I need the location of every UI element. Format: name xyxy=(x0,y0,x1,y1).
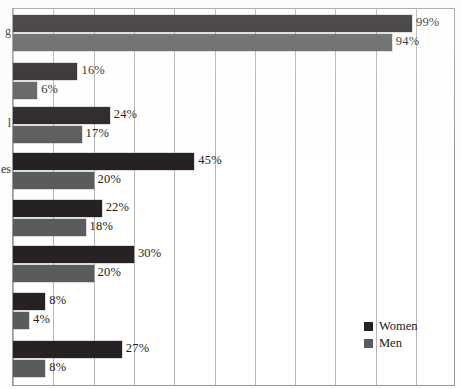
bar-men-5 xyxy=(13,265,94,282)
bar-women-6 xyxy=(13,293,45,310)
value-label-men-5: 20% xyxy=(98,264,122,281)
value-label-women-0: 99% xyxy=(416,14,440,31)
legend-label-women: Women xyxy=(379,319,418,334)
category-label-2: l xyxy=(0,116,11,131)
category-label-3: es xyxy=(0,162,11,177)
legend-item-men: Men xyxy=(364,336,418,351)
value-label-men-1: 6% xyxy=(41,81,58,98)
bar-women-2 xyxy=(13,107,110,124)
category-axis-labels: gles xyxy=(0,0,12,389)
value-label-women-2: 24% xyxy=(114,106,138,123)
gridline xyxy=(215,9,216,385)
bar-men-0 xyxy=(13,34,392,51)
value-label-men-3: 20% xyxy=(98,171,122,188)
value-label-women-7: 27% xyxy=(126,340,150,357)
value-label-women-6: 8% xyxy=(49,292,66,309)
legend-swatch-men-icon xyxy=(364,339,373,348)
gridline xyxy=(295,9,296,385)
bar-women-5 xyxy=(13,246,134,263)
value-label-men-4: 18% xyxy=(90,218,114,235)
legend-label-men: Men xyxy=(379,336,402,351)
bar-men-7 xyxy=(13,360,45,377)
bar-men-4 xyxy=(13,219,86,236)
value-label-women-5: 30% xyxy=(138,245,162,262)
value-label-women-1: 16% xyxy=(81,62,105,79)
bar-chart: 99%16%24%45%22%30%8%27%94%6%17%20%18%20%… xyxy=(0,0,461,389)
plot-frame-right-edge xyxy=(454,8,455,386)
value-label-women-4: 22% xyxy=(106,199,130,216)
bar-women-1 xyxy=(13,63,77,80)
gridline xyxy=(255,9,256,385)
bar-men-6 xyxy=(13,312,29,329)
gridline xyxy=(335,9,336,385)
bar-men-2 xyxy=(13,126,82,143)
value-label-men-2: 17% xyxy=(86,125,110,142)
bar-women-3 xyxy=(13,153,194,170)
gridline xyxy=(134,9,135,385)
legend: Women Men xyxy=(364,319,418,353)
bar-women-7 xyxy=(13,341,122,358)
value-label-men-6: 4% xyxy=(33,311,50,328)
bar-men-1 xyxy=(13,82,37,99)
legend-swatch-women-icon xyxy=(364,322,373,331)
bar-women-0 xyxy=(13,15,412,32)
gridline xyxy=(174,9,175,385)
bar-men-3 xyxy=(13,172,94,189)
value-label-women-3: 45% xyxy=(198,152,222,169)
value-label-men-0: 94% xyxy=(396,33,420,50)
value-label-men-7: 8% xyxy=(49,359,66,376)
category-label-0: g xyxy=(0,24,11,39)
legend-item-women: Women xyxy=(364,319,418,334)
bar-women-4 xyxy=(13,200,102,217)
